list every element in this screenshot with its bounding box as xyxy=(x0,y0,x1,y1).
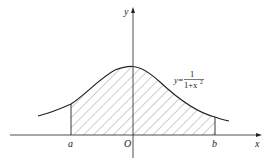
x-axis-label: x xyxy=(254,138,260,149)
bound-b-label: b xyxy=(212,138,217,149)
bound-a-label: a xyxy=(68,138,73,149)
equation-exponent: 2 xyxy=(200,79,203,85)
equation-prefix: y= xyxy=(173,75,184,85)
equation-numerator: 1 xyxy=(190,69,194,79)
y-axis-label: y xyxy=(123,6,129,17)
origin-label: O xyxy=(124,138,131,149)
y-axis-arrow-icon xyxy=(131,7,135,13)
x-axis-arrow-icon xyxy=(256,133,262,137)
integral-diagram: y x O a b y= 1 1+x 2 xyxy=(0,0,269,161)
equation-denominator: 1+x xyxy=(184,80,198,90)
curve-equation-label: y= 1 1+x 2 xyxy=(173,69,204,90)
hatched-region xyxy=(60,55,230,140)
